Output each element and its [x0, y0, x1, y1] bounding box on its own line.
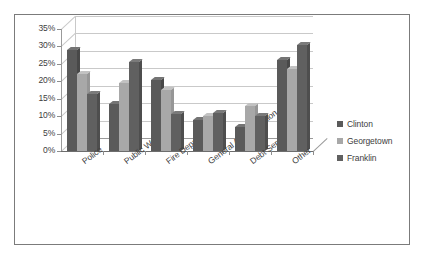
bar-face — [203, 116, 213, 151]
y-axis-tick-label: 5% — [21, 128, 55, 138]
gridline — [75, 33, 313, 34]
bar[interactable] — [193, 120, 203, 151]
gridline — [75, 16, 313, 17]
bar[interactable] — [245, 106, 255, 151]
bar-face — [277, 60, 287, 151]
bar[interactable] — [161, 90, 171, 151]
plot-area: 0%5%10%15%20%25%30%35%PolicePublic Works… — [61, 29, 313, 151]
bar-face — [77, 74, 87, 151]
y-axis-tick-label: 35% — [21, 23, 55, 33]
bar[interactable] — [77, 74, 87, 151]
legend-label: Georgetown — [347, 136, 392, 146]
legend-item-franklin[interactable]: Franklin — [337, 149, 421, 166]
y-axis-tick-label: 10% — [21, 110, 55, 120]
bar[interactable] — [119, 83, 129, 151]
legend-item-clinton[interactable]: Clinton — [337, 115, 421, 132]
legend-label: Clinton — [347, 119, 373, 129]
bar-face — [151, 80, 161, 151]
bar-face — [193, 120, 203, 151]
bar-face — [87, 94, 97, 152]
y-axis-tick-label: 30% — [21, 40, 55, 50]
y-axis-tick-label: 25% — [21, 58, 55, 68]
chart-frame: 0%5%10%15%20%25%30%35%PolicePublic Works… — [14, 14, 410, 245]
legend-swatch-icon — [337, 121, 343, 127]
bar[interactable] — [129, 62, 139, 151]
bar[interactable] — [277, 60, 287, 151]
bar-face — [297, 45, 307, 151]
y-axis-tick-label: 20% — [21, 75, 55, 85]
legend-label: Franklin — [347, 153, 376, 163]
bar-face — [287, 69, 297, 151]
gridline — [75, 51, 313, 52]
bar-face — [119, 83, 129, 151]
bar-face — [235, 127, 245, 151]
legend-item-georgetown[interactable]: Georgetown — [337, 132, 421, 149]
bar[interactable] — [87, 94, 97, 152]
bar-side — [139, 60, 142, 151]
bar-face — [161, 90, 171, 151]
bar-face — [245, 106, 255, 151]
y-axis-tick-label: 0% — [21, 145, 55, 155]
y-axis — [61, 29, 62, 151]
bar-face — [109, 104, 119, 151]
depth-gridline — [61, 16, 76, 30]
floor-right-edge — [313, 138, 328, 152]
depth-gridline — [61, 33, 76, 47]
bar[interactable] — [297, 45, 307, 151]
bar[interactable] — [109, 104, 119, 151]
y-axis-tick-label: 15% — [21, 93, 55, 103]
bar-side — [307, 42, 310, 151]
bar[interactable] — [287, 69, 297, 151]
legend-swatch-icon — [337, 155, 343, 161]
bar[interactable] — [67, 50, 77, 151]
bar[interactable] — [151, 80, 161, 151]
bar[interactable] — [235, 127, 245, 151]
bar-face — [67, 50, 77, 151]
bar[interactable] — [203, 116, 213, 151]
bar-face — [129, 62, 139, 151]
bar-side — [97, 91, 100, 151]
legend-swatch-icon — [337, 138, 343, 144]
chart-legend: ClintonGeorgetownFranklin — [337, 115, 421, 166]
